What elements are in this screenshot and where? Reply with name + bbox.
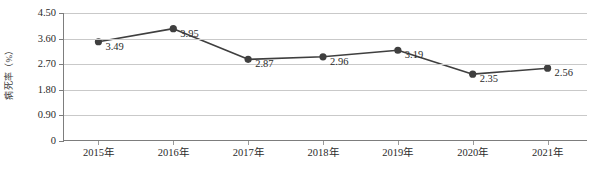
data-point-label: 3.19 [405,50,423,61]
x-tick-mark [548,141,549,145]
y-tick-mark [59,39,64,40]
x-tick-label: 2020年 [457,148,488,159]
y-tick-mark [59,115,64,116]
x-tick-label: 2019年 [382,148,413,159]
gridline [63,39,587,40]
data-point-label: 3.49 [105,41,123,52]
gridline [63,13,587,14]
data-point-marker [469,71,476,78]
x-tick-mark [98,141,99,145]
x-tick-label: 2018年 [308,148,339,159]
data-point-label: 2.56 [555,68,573,79]
x-tick-mark [473,141,474,145]
y-axis-title-text: 病死率（%） [5,45,14,99]
x-tick-label: 2015年 [83,148,114,159]
y-tick-label: 1.80 [38,85,56,96]
gridline [63,90,587,91]
x-tick-label: 2016年 [158,148,189,159]
plot-area [63,13,587,141]
gridline [63,115,587,116]
y-tick-label: 4.50 [38,8,56,19]
y-tick-mark [59,13,64,14]
data-point-label: 2.35 [480,74,498,85]
series-line-path [63,13,587,141]
x-axis-tick-labels: 2015年2016年2017年2018年2019年2020年2021年 [63,148,587,168]
y-tick-mark [59,90,64,91]
x-tick-mark [173,141,174,145]
y-tick-mark [59,141,64,142]
data-point-label: 3.95 [180,28,198,39]
x-tick-mark [248,141,249,145]
data-point-marker [544,65,551,72]
y-axis-tick-labels: 00.901.802.703.604.50 [18,0,60,145]
data-point-label: 2.87 [255,59,273,70]
gridline [63,64,587,65]
y-tick-label: 0.90 [38,110,56,121]
data-point-label: 2.96 [330,57,348,68]
line-chart: 病死率（%） 00.901.802.703.604.50 2015年2016年2… [0,0,595,177]
y-tick-label: 3.60 [38,33,56,44]
x-tick-label: 2017年 [233,148,264,159]
x-tick-label: 2021年 [532,148,563,159]
data-point-marker [245,56,252,63]
y-tick-label: 0 [51,136,56,147]
x-tick-mark [398,141,399,145]
x-tick-mark [323,141,324,145]
y-tick-mark [59,64,64,65]
series-polyline [98,29,547,75]
y-axis-title: 病死率（%） [0,0,18,145]
y-tick-label: 2.70 [38,59,56,70]
data-point-marker [394,47,401,54]
data-point-marker [319,53,326,60]
data-point-marker [170,25,177,32]
